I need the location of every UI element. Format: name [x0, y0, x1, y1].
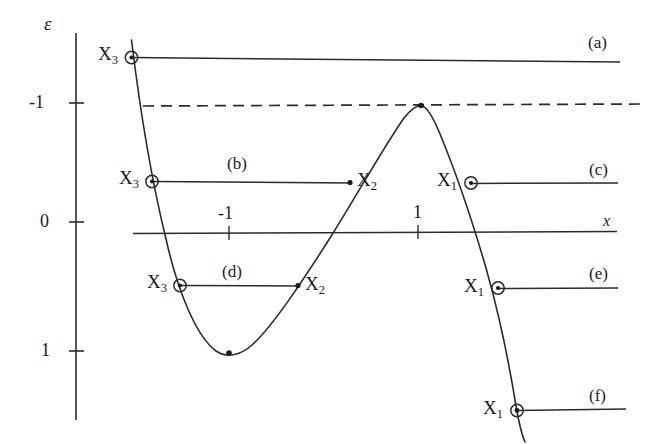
point-label-x1-f: X1	[483, 398, 503, 420]
point-label-x3-d-sub: 3	[161, 281, 167, 295]
epsilon-axis-label: ε	[44, 14, 52, 33]
branch-label-b: (b)	[227, 155, 247, 172]
point-label-x2-d-base: X	[305, 273, 319, 294]
cubic-curve	[132, 40, 526, 442]
point-label-x1-c-sub: 1	[451, 179, 457, 193]
figure-canvas: ε -1 0 1 -1 1 x X3 X3 X2 X1 X3 X2 X1 X1 …	[0, 0, 648, 444]
point-label-x1-c-base: X	[437, 169, 451, 190]
marker-curve-local-min	[226, 350, 232, 356]
level-line-d	[180, 286, 300, 287]
figure-svg	[0, 0, 648, 444]
point-label-x3-a-sub: 3	[112, 53, 118, 67]
marker-group-plain	[226, 103, 424, 356]
point-label-x2-d: X2	[305, 274, 325, 296]
y-tick-label-zero: 0	[40, 212, 49, 230]
point-label-x3-b: X3	[119, 168, 139, 190]
level-line-e	[498, 288, 618, 289]
point-label-x3-b-base: X	[119, 167, 133, 188]
y-tick-label-one: 1	[41, 341, 50, 359]
point-label-x1-f-sub: 1	[497, 407, 503, 421]
horizontal-axis	[133, 225, 617, 240]
point-label-x3-a-base: X	[98, 43, 112, 64]
level-line-f	[517, 409, 626, 411]
point-label-x2-b: X2	[357, 170, 377, 192]
y-tick-label-minus-one: -1	[29, 93, 44, 111]
branch-label-a: (a)	[588, 34, 607, 51]
point-label-x1-e: X1	[464, 276, 484, 298]
branch-label-e: (e)	[589, 265, 608, 282]
marker-curve-local-max	[418, 103, 424, 109]
point-label-x3-a: X3	[98, 44, 118, 66]
level-line-a	[131, 58, 620, 63]
vertical-axis	[69, 33, 84, 420]
point-label-x2-d-sub: 2	[319, 283, 325, 297]
x-axis-label: x	[603, 213, 610, 229]
x-tick-label-one: 1	[413, 203, 422, 221]
marker-x2-level-b	[347, 180, 352, 185]
point-label-x2-b-sub: 2	[371, 179, 377, 193]
point-label-x3-b-sub: 3	[133, 177, 139, 191]
level-line-b	[152, 182, 352, 184]
point-label-x1-f-base: X	[483, 397, 497, 418]
point-label-x3-d-base: X	[147, 271, 161, 292]
branch-label-d: (d)	[222, 263, 242, 280]
dashed-reference-line	[143, 104, 640, 106]
point-label-x3-d: X3	[147, 272, 167, 294]
point-label-x2-b-base: X	[357, 169, 371, 190]
point-label-x1-e-sub: 1	[478, 285, 484, 299]
level-line-c	[471, 183, 618, 184]
branch-label-f: (f)	[589, 387, 606, 404]
point-label-x1-c: X1	[437, 170, 457, 192]
marker-x2-level-d	[295, 283, 300, 288]
point-label-x1-e-base: X	[464, 275, 478, 296]
x-tick-label-minus-one: -1	[218, 204, 233, 222]
branch-label-c: (c)	[589, 161, 608, 178]
